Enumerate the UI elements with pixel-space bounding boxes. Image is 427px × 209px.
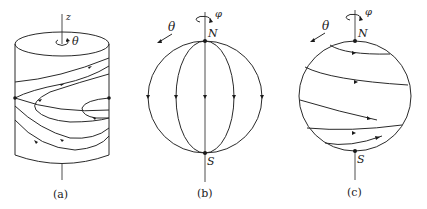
caption-c: (c) — [347, 186, 362, 199]
sphere-outline-c — [299, 41, 411, 151]
fixed-point-left — [13, 96, 17, 100]
flow-line-2 — [15, 66, 109, 98]
theta-label-b: θ — [168, 20, 176, 34]
arrow-1 — [88, 66, 92, 69]
south-label-c: S — [357, 153, 365, 166]
figure-canvas: z θ (a) θ φ N S (b) — [0, 0, 427, 209]
arrow-meridian-3 — [203, 95, 207, 99]
north-pole-c — [353, 39, 357, 43]
arrow-spiral-3 — [367, 116, 371, 120]
fixed-point-right — [107, 96, 111, 100]
phi-rotation-arc-b — [196, 16, 210, 22]
theta-direction-arrowhead-c — [310, 38, 315, 42]
arrow-5 — [60, 139, 64, 142]
spiral-line-4 — [307, 125, 402, 129]
caption-a: (a) — [53, 188, 68, 201]
south-label-b: S — [207, 155, 215, 168]
panel-a-cylinder: z θ (a) — [13, 12, 111, 201]
theta-direction-arrowhead-b — [157, 39, 162, 43]
arrow-meridian-4 — [232, 95, 236, 99]
flow-line-4-hairpin-right — [82, 98, 109, 118]
caption-b: (b) — [197, 187, 213, 200]
cylinder-bottom-arc — [15, 155, 109, 164]
spiral-line-3 — [300, 100, 377, 120]
arrow-meridian-5 — [260, 95, 264, 99]
arrow-spiral-1 — [352, 51, 356, 55]
north-pole-b — [203, 39, 207, 43]
phi-label-c: φ — [365, 6, 372, 17]
phi-rotation-arc-c — [346, 14, 360, 20]
arrow-2 — [60, 84, 64, 86]
theta-label-c: θ — [322, 19, 330, 33]
arrow-spiral-4 — [352, 131, 356, 135]
arrow-meridian-1 — [146, 95, 150, 99]
north-label-c: N — [357, 27, 368, 40]
z-axis-label: z — [65, 12, 71, 22]
phi-label-b: φ — [215, 8, 222, 19]
theta-rotation-arrowhead — [66, 38, 70, 42]
arrow-6 — [34, 140, 38, 144]
flow-line-6 — [15, 120, 109, 150]
panel-b-sphere: θ φ N S (b) — [146, 8, 264, 200]
panel-c-sphere: θ φ N S (c) — [299, 6, 411, 199]
theta-label-a: θ — [72, 35, 79, 48]
north-label-b: N — [207, 27, 218, 40]
spiral-line-1 — [330, 45, 390, 54]
arrow-meridian-2 — [174, 95, 178, 99]
spiral-line-5 — [325, 136, 382, 144]
